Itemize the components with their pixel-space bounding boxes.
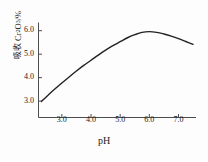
- x-tick-label: 4.0: [79, 116, 103, 124]
- y-axis-tick-marks: [39, 31, 43, 101]
- x-axis-tick-labels: 3.04.05.06.07.0: [0, 116, 208, 130]
- x-axis-label: pH: [0, 136, 208, 146]
- x-tick-label: 3.0: [50, 116, 74, 124]
- x-tick-label: 7.0: [167, 116, 191, 124]
- x-tick-label: 5.0: [108, 116, 132, 124]
- chart-figure: 吸收 Cr2O3/% 3.04.05.06.0 3.04.05.06.07.0 …: [0, 0, 208, 162]
- data-series-line: [41, 32, 193, 102]
- x-tick-label: 6.0: [137, 116, 161, 124]
